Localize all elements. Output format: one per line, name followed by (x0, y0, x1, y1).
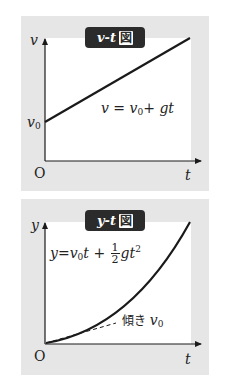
origin-label: O (34, 349, 45, 363)
title-kanji: 図 (119, 214, 133, 228)
title-kanji: 図 (119, 31, 133, 45)
tangent-slope-label: 傾き v0 (122, 313, 163, 329)
fraction-one-half: 12 (111, 242, 120, 265)
y-axis-label: y (31, 218, 39, 232)
yt-title-badge: y-t図 (85, 210, 145, 231)
x-axis-label: t (185, 352, 191, 366)
y-intercept-label: v0 (27, 115, 41, 131)
vt-graph-panel: v-t図 v v0 O t v = v0+ gt (21, 16, 209, 191)
yt-graph-panel: y-t図 y O t y=v0t + 12gt2 傾き v0 (21, 199, 209, 375)
x-axis-label: t (185, 168, 191, 182)
yt-equation: y=v0t + 12gt2 (50, 242, 141, 265)
y-axis-label: v (30, 33, 38, 47)
vt-title-badge: v-t図 (85, 27, 145, 48)
vt-equation: v = v0+ gt (101, 101, 174, 117)
origin-label: O (34, 166, 45, 180)
title-text: v-t (97, 30, 116, 45)
title-text: y-t (97, 213, 116, 228)
